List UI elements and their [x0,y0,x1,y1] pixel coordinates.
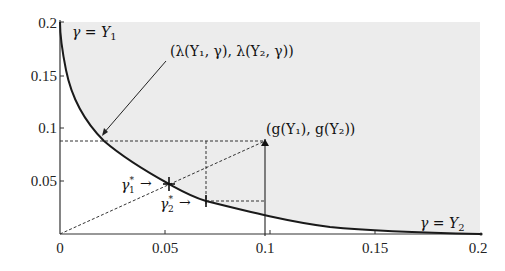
x-tick-label-0.15: 0.15 [362,240,388,256]
x-tick-label-0.1: 0.1 [256,240,275,256]
x-tick-label-0.2: 0.2 [469,240,488,256]
label-gamma1-star: γ*1 [121,175,135,195]
y-tick-label-0.2: 0.2 [38,15,57,31]
y-tick-label-0.1: 0.1 [38,120,57,136]
y-tick-label-0.15: 0.15 [31,68,57,84]
label-g-point: (g(Y₁), g(Y₂)) [266,121,355,137]
label-lambda-point: (λ(Y₁, γ), λ(Y₂, γ)) [170,43,294,59]
label-gamma-eq-y1: γ = Y1 [72,24,117,42]
label-gamma2-star: γ*2 [160,194,174,214]
diagram: 0.05 0.1 0.15 0.2 0 0.05 0.1 0.15 0.2 γ … [0,0,505,271]
gamma1-arrow: → [140,175,152,191]
gamma2-arrow: → [179,194,191,210]
x-tick-label-0: 0 [56,240,64,256]
label-gamma-eq-y2: γ = Y2 [420,215,465,233]
x-tick-label-0.05: 0.05 [152,240,178,256]
y-tick-label-0.05: 0.05 [31,173,57,189]
